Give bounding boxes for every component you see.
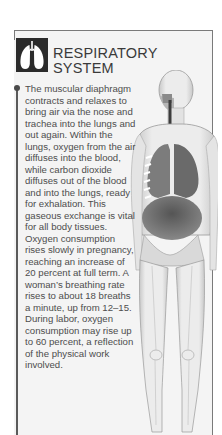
- section-body-text: The muscular diaphragm contracts and rel…: [25, 83, 137, 371]
- section-icon-box: [16, 38, 48, 72]
- panel-border-left: [14, 30, 15, 40]
- bullet-dot: [14, 85, 20, 91]
- lungs-icon: [16, 38, 48, 72]
- left-rule: [16, 88, 18, 435]
- section-title-line1: RESPIRATORY: [53, 46, 158, 61]
